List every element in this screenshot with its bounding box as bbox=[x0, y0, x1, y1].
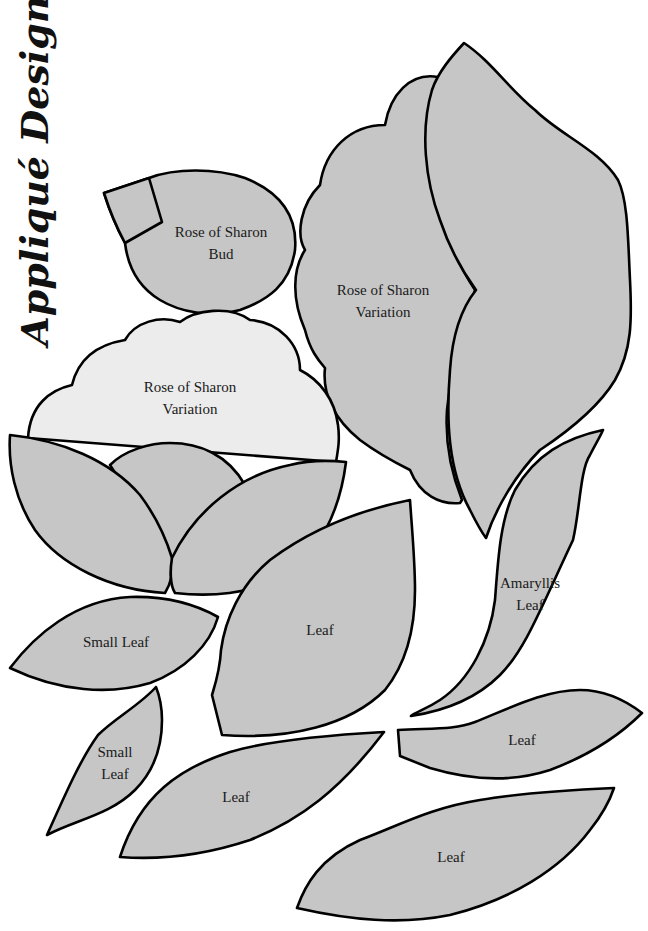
rose-variation-right-label-line2: Variation bbox=[337, 301, 430, 323]
applique-pattern-canvas bbox=[0, 0, 648, 931]
leaf-right-small-label-line1: Leaf bbox=[508, 729, 535, 751]
leaf-bottom-right-label: Leaf bbox=[437, 846, 464, 868]
leaf-right-small-label: Leaf bbox=[508, 729, 535, 751]
rose-variation-left-label-line2: Variation bbox=[144, 398, 237, 420]
small-leaf-vertical-label: Small Leaf bbox=[97, 741, 132, 785]
amaryllis-leaf-label: Amaryllis Leaf bbox=[500, 572, 560, 616]
rose-bud-label-line1: Rose of Sharon bbox=[175, 221, 268, 243]
leaf-large-center-label: Leaf bbox=[306, 619, 333, 641]
rose-bud-label: Rose of Sharon Bud bbox=[175, 221, 268, 265]
amaryllis-leaf-label-line1: Amaryllis bbox=[500, 572, 560, 594]
leaf-bottom-center-shape bbox=[120, 732, 384, 858]
small-leaf-horizontal-label: Small Leaf bbox=[83, 631, 149, 653]
rose-variation-right-label-line1: Rose of Sharon bbox=[337, 279, 430, 301]
leaf-large-center-label-line1: Leaf bbox=[306, 619, 333, 641]
small-leaf-vertical-label-line2: Leaf bbox=[97, 763, 132, 785]
leaf-bottom-right-label-line1: Leaf bbox=[437, 846, 464, 868]
small-leaf-vertical-label-line1: Small bbox=[97, 741, 132, 763]
rose-variation-right-label: Rose of Sharon Variation bbox=[337, 279, 430, 323]
small-leaf-horizontal-label-line1: Small Leaf bbox=[83, 631, 149, 653]
leaf-bottom-center-label-line1: Leaf bbox=[222, 786, 249, 808]
amaryllis-leaf-label-line2: Leaf bbox=[500, 594, 560, 616]
rose-variation-left-label: Rose of Sharon Variation bbox=[144, 376, 237, 420]
rose-variation-left-label-line1: Rose of Sharon bbox=[144, 376, 237, 398]
leaf-bottom-center-label: Leaf bbox=[222, 786, 249, 808]
rose-bud-label-line2: Bud bbox=[175, 243, 268, 265]
